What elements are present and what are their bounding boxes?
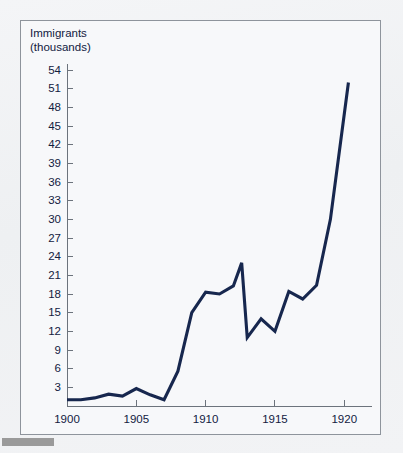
y-tick-label: 15 xyxy=(48,306,61,318)
y-tick-label: 42 xyxy=(48,138,61,150)
x-tick-label: 1905 xyxy=(124,413,150,425)
x-tick-marks xyxy=(67,400,344,406)
x-tick-label: 1915 xyxy=(262,413,288,425)
y-tick-label: 24 xyxy=(48,250,61,262)
y-axis-group: 545148454239363330272421181512963 xyxy=(48,64,73,406)
y-tick-label: 27 xyxy=(48,232,61,244)
line-chart: 545148454239363330272421181512963 190019… xyxy=(20,20,381,435)
figure-container: Immigrants (thousands) 54514845423936333… xyxy=(0,0,403,453)
y-tick-marks xyxy=(67,70,73,387)
immigrants-series-line xyxy=(67,82,348,399)
y-tick-label: 45 xyxy=(48,120,61,132)
x-axis-group: 19001905191019151920 xyxy=(54,400,372,425)
x-tick-labels: 19001905191019151920 xyxy=(54,413,357,425)
x-tick-label: 1910 xyxy=(193,413,219,425)
x-tick-label: 1920 xyxy=(331,413,357,425)
footer-gray-bar xyxy=(2,438,54,446)
y-tick-label: 48 xyxy=(48,101,61,113)
y-tick-label: 51 xyxy=(48,82,61,94)
y-tick-label: 18 xyxy=(48,288,61,300)
y-tick-label: 6 xyxy=(55,362,61,374)
y-tick-label: 36 xyxy=(48,176,61,188)
y-tick-label: 39 xyxy=(48,157,61,169)
y-tick-label: 54 xyxy=(48,64,61,76)
y-tick-label: 21 xyxy=(48,269,61,281)
y-tick-labels: 545148454239363330272421181512963 xyxy=(48,64,61,393)
y-tick-label: 30 xyxy=(48,213,61,225)
y-tick-label: 12 xyxy=(48,325,61,337)
y-tick-label: 9 xyxy=(55,344,61,356)
y-tick-label: 3 xyxy=(55,381,61,393)
x-tick-label: 1900 xyxy=(54,413,80,425)
y-tick-label: 33 xyxy=(48,194,61,206)
